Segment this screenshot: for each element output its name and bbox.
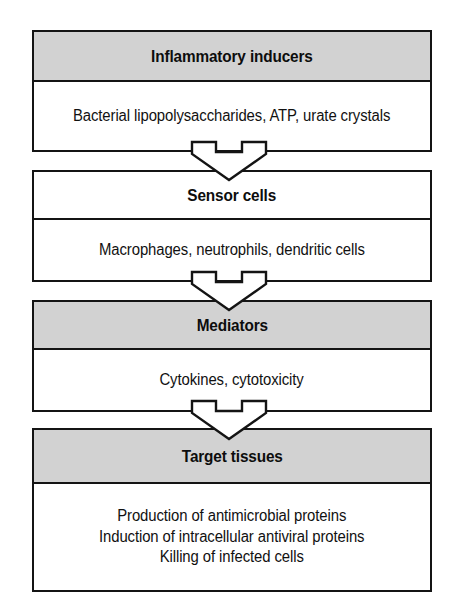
stage-header-mediators: Mediators: [34, 302, 430, 350]
stage-header-inducers: Inflammatory inducers: [34, 32, 430, 82]
stage-box-sensor: Sensor cells Macrophages, neutrophils, d…: [32, 170, 432, 282]
stage-box-mediators: Mediators Cytokines, cytotoxicity: [32, 300, 432, 412]
stage-body-mediators: Cytokines, cytotoxicity: [34, 350, 430, 410]
stage-body-target: Production of antimicrobial proteins Ind…: [34, 484, 430, 590]
stage-body-line: Induction of intracellular antiviral pro…: [99, 527, 364, 548]
stage-box-inducers: Inflammatory inducers Bacterial lipopoly…: [32, 30, 432, 152]
stage-body-text-inducers: Bacterial lipopolysaccharides, ATP, urat…: [73, 106, 390, 127]
stage-header-target: Target tissues: [34, 430, 430, 484]
stage-header-sensor: Sensor cells: [34, 172, 430, 220]
stage-header-label-sensor: Sensor cells: [188, 186, 277, 204]
stage-header-label-target: Target tissues: [182, 447, 283, 465]
stage-box-target: Target tissues Production of antimicrobi…: [32, 428, 432, 592]
stage-body-line: Killing of infected cells: [99, 547, 364, 568]
stage-body-sensor: Macrophages, neutrophils, dendritic cell…: [34, 220, 430, 280]
stage-body-line: Production of antimicrobial proteins: [99, 506, 364, 527]
stage-body-text-mediators: Cytokines, cytotoxicity: [160, 370, 304, 391]
stage-body-inducers: Bacterial lipopolysaccharides, ATP, urat…: [34, 82, 430, 150]
stage-header-label-mediators: Mediators: [196, 316, 267, 334]
stage-body-text-target: Production of antimicrobial proteins Ind…: [99, 506, 364, 568]
stage-header-label-inducers: Inflammatory inducers: [151, 47, 313, 65]
inflammatory-pathway-diagram: Inflammatory inducers Bacterial lipopoly…: [0, 0, 457, 615]
stage-body-text-sensor: Macrophages, neutrophils, dendritic cell…: [99, 240, 365, 261]
